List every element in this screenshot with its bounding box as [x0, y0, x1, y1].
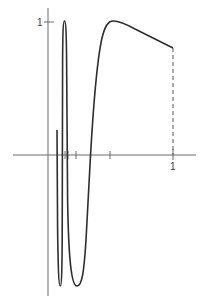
y-tick-label-one: 1	[37, 17, 43, 28]
oscillating-curve	[57, 21, 173, 286]
x-tick-label-one: 1	[170, 161, 176, 172]
chart: 1 1	[0, 0, 205, 303]
